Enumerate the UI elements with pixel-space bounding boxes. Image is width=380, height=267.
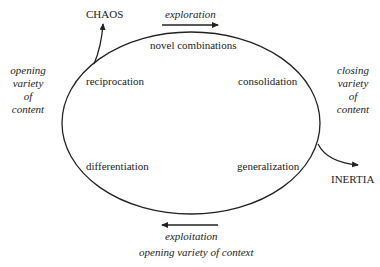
chaos-label: CHAOS — [86, 8, 123, 20]
stage-novel-combinations: novel combinations — [150, 39, 236, 51]
stage-reciprocation: reciprocation — [86, 75, 144, 87]
right-side-line-1: closing — [331, 64, 375, 77]
stage-differentiation: differentiation — [86, 160, 149, 172]
right-side-line-2: variety — [331, 77, 375, 90]
left-side-line-2: variety — [6, 77, 50, 90]
left-side-line-3: of — [6, 90, 50, 103]
exploitation-label: exploitation — [165, 230, 218, 242]
inertia-exit-arrow — [318, 144, 358, 165]
exploration-label: exploration — [165, 8, 216, 20]
closing-variety-of-content-label: closing variety of content — [331, 64, 375, 116]
opening-variety-of-content-label: opening variety of content — [6, 64, 50, 116]
inertia-label: INERTIA — [331, 173, 374, 185]
right-side-line-4: content — [331, 103, 375, 116]
cycle-ellipse — [62, 32, 320, 214]
left-side-line-1: opening — [6, 64, 50, 77]
left-side-line-4: content — [6, 103, 50, 116]
right-side-line-3: of — [331, 90, 375, 103]
opening-variety-of-context-label: opening variety of context — [139, 246, 254, 258]
stage-consolidation: consolidation — [238, 75, 297, 87]
stage-generalization: generalization — [237, 160, 299, 172]
